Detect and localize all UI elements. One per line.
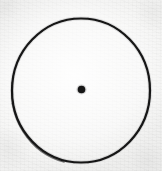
diagram-drawing	[0, 0, 162, 171]
figure-canvas	[0, 0, 162, 171]
center-point	[78, 86, 86, 94]
